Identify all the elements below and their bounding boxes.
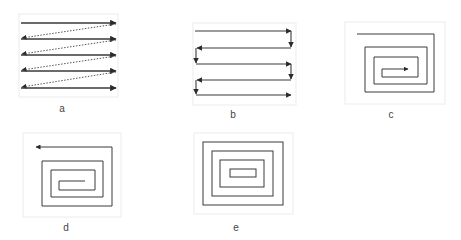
panel-b-serpentine xyxy=(193,23,296,105)
panel-c-inward-spiral xyxy=(345,22,445,104)
panel-label-d: d xyxy=(63,222,69,233)
scan-patterns-figure xyxy=(0,0,461,240)
panel-label-b: b xyxy=(230,109,236,120)
panel-label-a: a xyxy=(59,103,65,114)
panel-e-concentric xyxy=(194,133,293,214)
panel-label-c: c xyxy=(389,109,394,120)
panel-d-outward-spiral xyxy=(23,133,121,217)
panel-label-e: e xyxy=(233,222,239,233)
panel-a-raster xyxy=(19,14,118,97)
